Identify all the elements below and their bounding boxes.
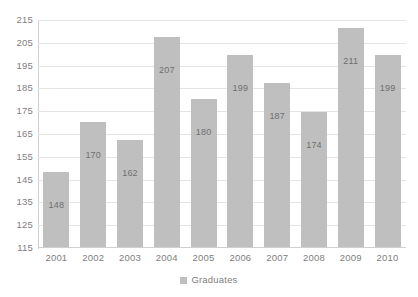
bar[interactable] <box>191 99 217 247</box>
bar-value-label: 207 <box>159 66 175 75</box>
bar-slot: 170 <box>75 19 112 247</box>
bar[interactable] <box>301 112 327 247</box>
bar-slot: 180 <box>185 19 222 247</box>
y-axis-tick-label: 125 <box>17 220 33 230</box>
x-axis-tick-label: 2003 <box>112 252 149 263</box>
y-axis-tick-label: 205 <box>17 38 33 48</box>
y-axis-tick-label: 145 <box>17 175 33 185</box>
y-axis-tick-label: 195 <box>17 61 33 71</box>
bar-value-label: 170 <box>85 151 101 160</box>
y-axis-tick-labels: 115125135145155165175185195205215 <box>0 20 33 248</box>
legend-label: Graduates <box>191 275 237 285</box>
legend-swatch-icon <box>180 277 187 284</box>
plot-area: 148170162207180199187174211199 <box>38 20 406 248</box>
bar-value-label: 180 <box>196 128 212 137</box>
bar-slot: 199 <box>222 19 259 247</box>
x-axis-tick-label: 2010 <box>369 252 406 263</box>
y-axis-tick-label: 155 <box>17 152 33 162</box>
x-axis-tick-label: 2005 <box>185 252 222 263</box>
bar[interactable] <box>117 140 143 247</box>
y-axis-tick-label: 165 <box>17 129 33 139</box>
bar-slot: 162 <box>112 19 149 247</box>
y-axis-tick-label: 185 <box>17 84 33 94</box>
bar-value-label: 187 <box>269 112 285 121</box>
bar-value-label: 211 <box>343 57 358 66</box>
x-axis-tick-label: 2004 <box>148 252 185 263</box>
x-axis-tick-label: 2002 <box>75 252 112 263</box>
x-axis-tick-label: 2009 <box>332 252 369 263</box>
chart-legend: Graduates <box>0 275 418 285</box>
bar-value-label: 199 <box>380 84 396 93</box>
bar-value-label: 148 <box>49 201 65 210</box>
bar-slot: 207 <box>148 19 185 247</box>
y-axis-tick-label: 215 <box>17 15 33 25</box>
bar-slot: 148 <box>38 19 75 247</box>
bar-slot: 174 <box>296 19 333 247</box>
x-axis-tick-label: 2001 <box>38 252 75 263</box>
y-axis-tick-label: 135 <box>17 198 33 208</box>
bars-layer: 148170162207180199187174211199 <box>38 20 406 248</box>
bar-slot: 211 <box>332 19 369 247</box>
y-axis-tick-label: 175 <box>17 106 33 116</box>
x-axis-tick-labels: 2001200220032004200520062007200820092010 <box>38 252 406 266</box>
bar-value-label: 162 <box>122 169 138 178</box>
x-axis-tick-label: 2006 <box>222 252 259 263</box>
bar-slot: 187 <box>259 19 296 247</box>
x-axis-tick-label: 2008 <box>296 252 333 263</box>
bar[interactable] <box>264 83 290 247</box>
bar[interactable] <box>80 122 106 247</box>
bar-value-label: 174 <box>306 141 322 150</box>
bar-slot: 199 <box>369 19 406 247</box>
y-axis-tick-label: 115 <box>17 243 33 253</box>
x-axis-tick-label: 2007 <box>259 252 296 263</box>
bar-chart: 115125135145155165175185195205215 148170… <box>0 0 418 297</box>
bar-value-label: 199 <box>233 84 249 93</box>
